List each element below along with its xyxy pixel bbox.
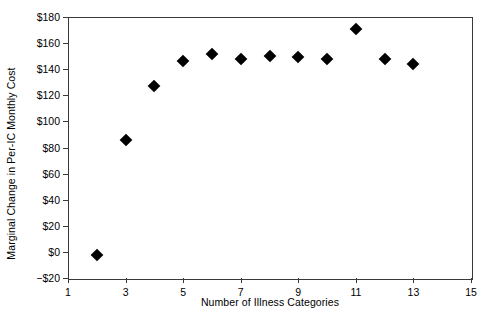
data-point <box>119 133 132 146</box>
data-point <box>407 58 420 71</box>
data-point <box>177 55 190 68</box>
y-tick-mark <box>63 69 68 70</box>
scatter-chart-figure: Marginal Change in Per-IC Monthly Cost −… <box>0 0 492 327</box>
y-tick-mark <box>63 43 68 44</box>
data-point <box>90 248 103 261</box>
data-point <box>292 51 305 64</box>
x-tick-mark <box>241 278 242 283</box>
y-tick-label: $60 <box>42 168 60 180</box>
x-tick-mark <box>471 278 472 283</box>
y-tick-label: $20 <box>42 220 60 232</box>
y-axis-title: Marginal Change in Per-IC Monthly Cost <box>0 0 22 327</box>
x-axis-title: Number of Illness Categories <box>68 296 472 308</box>
x-tick-mark <box>68 278 69 283</box>
x-tick-mark <box>126 278 127 283</box>
x-tick-mark <box>356 278 357 283</box>
x-tick-mark <box>298 278 299 283</box>
y-tick-label: $140 <box>37 63 60 75</box>
data-point <box>378 52 391 65</box>
x-tick-mark <box>413 278 414 283</box>
y-tick-label: $40 <box>42 194 60 206</box>
y-tick-mark <box>63 95 68 96</box>
y-tick-mark <box>63 17 68 18</box>
y-tick-mark <box>63 226 68 227</box>
plot-area: −$20$0$20$40$60$80$100$120$140$160$18013… <box>68 17 471 278</box>
data-point <box>349 22 362 35</box>
y-tick-mark <box>63 148 68 149</box>
y-tick-label: $0 <box>48 246 60 258</box>
data-point <box>234 52 247 65</box>
x-tick-mark <box>183 278 184 283</box>
y-tick-mark <box>63 200 68 201</box>
data-point <box>206 47 219 60</box>
data-point <box>148 80 161 93</box>
y-tick-mark <box>63 174 68 175</box>
y-tick-mark <box>63 252 68 253</box>
y-tick-label: $100 <box>37 115 60 127</box>
data-point <box>321 52 334 65</box>
y-tick-mark <box>63 121 68 122</box>
y-tick-label: $180 <box>37 11 60 23</box>
y-tick-label: $120 <box>37 89 60 101</box>
y-tick-label: $80 <box>42 142 60 154</box>
y-tick-label: $160 <box>37 37 60 49</box>
y-tick-label: −$20 <box>36 272 60 284</box>
data-point <box>263 50 276 63</box>
